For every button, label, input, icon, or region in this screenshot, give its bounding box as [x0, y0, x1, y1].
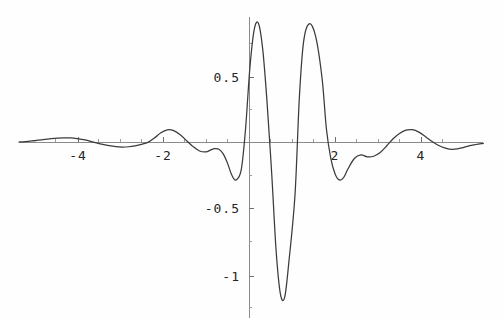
- x-tick-label: -4: [69, 148, 87, 163]
- x-tick-label: 4: [417, 148, 426, 163]
- plot-canvas: -4-224 0.5-0.5-1: [0, 0, 503, 318]
- y-tick-label: 0.5: [214, 70, 240, 85]
- y-tick-label: -1: [222, 269, 240, 284]
- y-tick-label: -0.5: [205, 201, 240, 216]
- wavelet-plot-svg: -4-224 0.5-0.5-1: [0, 0, 503, 318]
- x-tick-label: -2: [154, 148, 172, 163]
